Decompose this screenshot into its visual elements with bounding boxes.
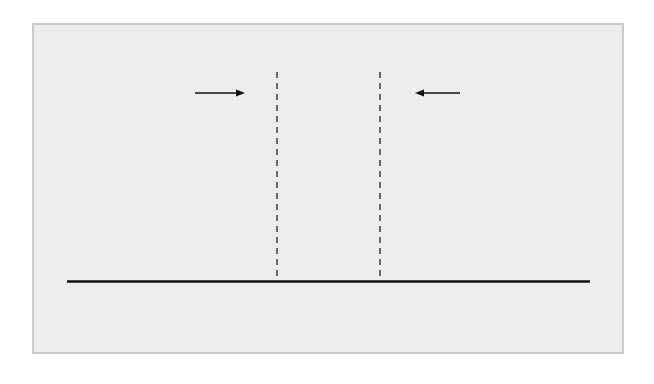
distribution-diagram xyxy=(0,0,654,384)
polygon-b-arrow xyxy=(415,90,460,97)
polygon-a-arrow xyxy=(195,90,245,97)
